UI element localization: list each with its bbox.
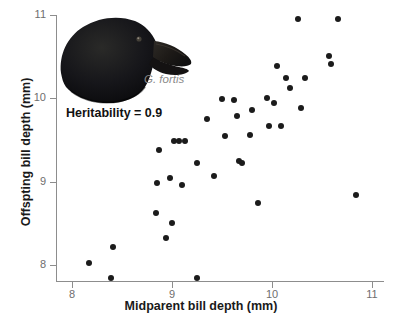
data-point bbox=[255, 200, 261, 206]
data-point bbox=[271, 100, 277, 106]
data-point bbox=[231, 97, 237, 103]
data-point bbox=[295, 16, 301, 22]
data-point bbox=[328, 61, 334, 67]
data-point bbox=[326, 53, 332, 59]
data-point bbox=[287, 85, 293, 91]
x-axis-line bbox=[56, 281, 384, 282]
data-point bbox=[169, 220, 175, 226]
data-point bbox=[234, 113, 240, 119]
y-tick-mark bbox=[50, 265, 56, 266]
y-axis-title: Offspting bill depth (mm) bbox=[19, 42, 33, 262]
finch-photo bbox=[57, 11, 202, 106]
data-point bbox=[154, 180, 160, 186]
data-point bbox=[153, 210, 159, 216]
data-point bbox=[211, 173, 217, 179]
data-point bbox=[278, 123, 284, 129]
data-point bbox=[353, 192, 359, 198]
data-point bbox=[156, 147, 162, 153]
data-point bbox=[179, 182, 185, 188]
data-point bbox=[239, 160, 245, 166]
data-point bbox=[302, 75, 308, 81]
y-axis-line bbox=[56, 15, 57, 282]
data-point bbox=[266, 123, 272, 129]
data-point bbox=[264, 95, 270, 101]
y-tick-label: 11 bbox=[26, 8, 46, 20]
data-point bbox=[110, 244, 116, 250]
y-tick-mark bbox=[50, 15, 56, 16]
data-point bbox=[194, 160, 200, 166]
data-point bbox=[335, 16, 341, 22]
data-point bbox=[247, 132, 253, 138]
data-point bbox=[283, 75, 289, 81]
x-axis-title: Midparent bill depth (mm) bbox=[0, 299, 402, 313]
data-point bbox=[274, 63, 280, 69]
y-tick-mark bbox=[50, 182, 56, 183]
data-point bbox=[204, 116, 210, 122]
data-point bbox=[219, 96, 225, 102]
data-point bbox=[222, 133, 228, 139]
scatter-plot-figure: G. fortis Heritability = 0.9 891011 8910… bbox=[0, 0, 402, 327]
data-point bbox=[86, 260, 92, 266]
y-tick-mark bbox=[50, 98, 56, 99]
heritability-annotation: Heritability = 0.9 bbox=[66, 106, 162, 120]
species-label: G. fortis bbox=[144, 73, 184, 85]
data-point bbox=[167, 175, 173, 181]
data-point bbox=[249, 107, 255, 113]
data-point bbox=[163, 235, 169, 241]
data-point bbox=[182, 138, 188, 144]
data-point bbox=[298, 105, 304, 111]
